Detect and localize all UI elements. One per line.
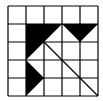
small-black-triangle-left bbox=[26, 60, 44, 96]
grid-figure bbox=[0, 0, 103, 101]
diagonal-line bbox=[44, 42, 98, 96]
small-black-triangle-top bbox=[62, 24, 98, 42]
